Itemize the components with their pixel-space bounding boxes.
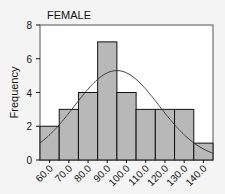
y-axis-label: Frequency xyxy=(8,66,20,118)
y-tick-label: 2 xyxy=(26,121,32,132)
histogram-chart: 0246860.070.080.090.0100.0110.0120.0130.… xyxy=(0,0,225,194)
histogram-bar xyxy=(155,109,174,160)
histogram-bar xyxy=(98,42,117,160)
y-tick-label: 6 xyxy=(26,54,32,65)
histogram-bar xyxy=(194,143,213,160)
chart-title: FEMALE xyxy=(47,9,91,21)
histogram-bar xyxy=(78,93,97,161)
x-tick-label: 140.0 xyxy=(183,162,209,188)
histogram-bar xyxy=(136,109,155,160)
histogram-bar xyxy=(59,109,78,160)
x-tick-label: 70.0 xyxy=(53,162,75,184)
x-tick-label: 60.0 xyxy=(33,162,55,184)
x-tick-label: 80.0 xyxy=(72,162,94,184)
histogram-bar xyxy=(40,126,59,160)
y-tick-label: 8 xyxy=(26,20,32,31)
histogram-bar xyxy=(117,93,136,161)
y-tick-label: 4 xyxy=(26,88,32,99)
x-tick-label: 100.0 xyxy=(106,162,132,188)
y-tick-label: 0 xyxy=(26,155,32,166)
